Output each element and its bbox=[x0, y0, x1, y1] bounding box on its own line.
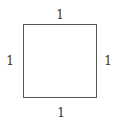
bottom-side-label: 1 bbox=[57, 107, 65, 119]
left-side-label: 1 bbox=[6, 55, 14, 67]
unit-square bbox=[23, 24, 97, 98]
right-side-label: 1 bbox=[104, 55, 112, 67]
top-side-label: 1 bbox=[56, 9, 64, 21]
